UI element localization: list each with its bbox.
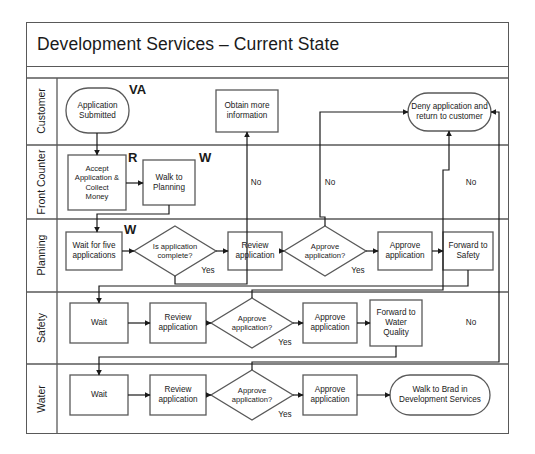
node-safety-wait[interactable] — [70, 303, 128, 343]
node-safety-review[interactable] — [150, 303, 206, 343]
node-wait-for-five[interactable] — [66, 232, 122, 270]
node-safety-approve[interactable] — [303, 303, 357, 343]
connector-forward-water-to-wait — [99, 346, 396, 375]
node-walk-to-brad[interactable] — [390, 375, 490, 415]
connector-planning-no-to-deny — [320, 112, 408, 226]
lane-label-water: Water — [35, 385, 47, 413]
node-water-approve-q[interactable] — [211, 370, 293, 420]
node-application-submitted[interactable] — [66, 88, 129, 133]
node-obtain-more-information[interactable] — [216, 90, 278, 132]
node-walk-to-planning[interactable] — [143, 160, 195, 205]
diagram-canvas: Customer Front Counter Planning Safety W… — [0, 0, 535, 454]
lane-label-safety: Safety — [35, 312, 47, 343]
node-planning-review[interactable] — [228, 232, 282, 270]
node-forward-to-water[interactable] — [370, 300, 422, 346]
diagram-root: Development Services – Current State — [0, 0, 535, 454]
node-safety-approve-q[interactable] — [211, 298, 293, 348]
lane-label-planning: Planning — [35, 234, 47, 275]
node-planning-approve[interactable] — [378, 232, 432, 270]
connector-safety-no-to-deny — [252, 131, 449, 298]
node-water-wait[interactable] — [70, 375, 128, 415]
node-forward-to-safety[interactable] — [443, 232, 493, 270]
lane-label-customer: Customer — [35, 88, 47, 134]
node-accept-application[interactable] — [68, 155, 126, 210]
node-deny-application[interactable] — [408, 93, 491, 131]
node-is-application-complete[interactable] — [134, 226, 216, 276]
lane-label-front-counter: Front Counter — [35, 149, 47, 214]
node-water-approve[interactable] — [303, 375, 357, 415]
connector-forward-safety-to-wait — [99, 270, 468, 303]
node-planning-approve-q[interactable] — [284, 226, 366, 276]
node-water-review[interactable] — [150, 375, 206, 415]
